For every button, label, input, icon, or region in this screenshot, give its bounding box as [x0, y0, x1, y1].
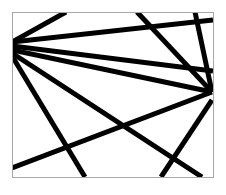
lines-group — [12, 12, 213, 177]
line-diagram — [0, 0, 226, 195]
